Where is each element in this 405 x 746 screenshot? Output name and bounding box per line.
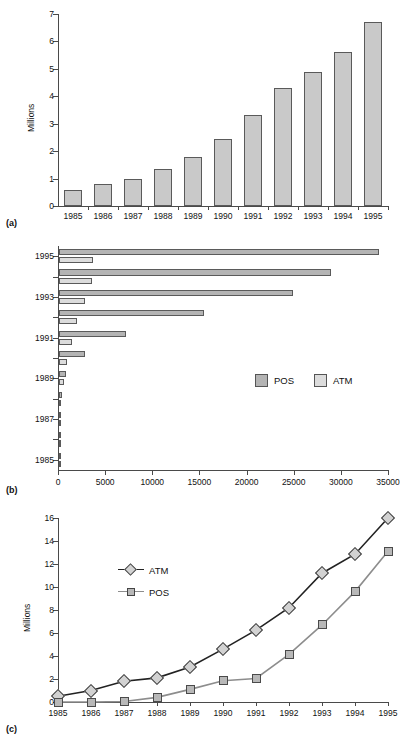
chart-a-x-tick-label: 1994 — [328, 211, 358, 221]
chart-a-x-tick-label: 1988 — [148, 211, 178, 221]
chart-a-x-tick — [208, 206, 209, 210]
chart-b-x-tick-label: 15000 — [177, 477, 221, 487]
chart-a-x-tick-label: 1986 — [88, 211, 118, 221]
panel-a-label: (a) — [6, 218, 17, 228]
chart-a-x-tick-label: 1989 — [178, 211, 208, 221]
chart-a-bar — [124, 179, 143, 206]
chart-a-bar — [154, 169, 173, 206]
chart-b-bar-atm — [59, 278, 92, 284]
chart-a-y-tick-label: 6 — [40, 36, 54, 46]
chart-panel-a: Millions (a) 012345671985198619871988198… — [0, 0, 405, 240]
chart-b-x-tick-label: 0 — [36, 477, 80, 487]
chart-a-y-tick-label: 3 — [40, 119, 54, 129]
chart-b-bar-pos — [59, 432, 61, 438]
chart-b-bar-pos — [59, 249, 379, 255]
panel-b-label: (b) — [6, 485, 18, 495]
chart-b-bar-pos — [59, 310, 204, 316]
legend-label-pos: POS — [274, 375, 294, 386]
chart-c-point-pos — [219, 676, 228, 685]
chart-a-bar — [244, 115, 263, 206]
chart-c-point-pos — [87, 698, 96, 707]
chart-b-x-tick — [199, 470, 200, 475]
chart-c-point-pos — [318, 620, 327, 629]
chart-a-y-axis-label: Millions — [26, 104, 36, 132]
chart-c-point-pos — [186, 685, 195, 694]
chart-a-x-tick-label: 1995 — [358, 211, 388, 221]
chart-a-x-axis — [58, 206, 388, 207]
chart-b-y-tick-label: 1985 — [22, 455, 54, 465]
chart-a-bar — [364, 22, 383, 206]
chart-b-bar-atm — [59, 257, 93, 263]
chart-a-bar — [334, 52, 353, 206]
chart-a-bar — [64, 190, 83, 206]
chart-b-bar-pos — [59, 371, 66, 377]
chart-b-bar-pos — [59, 453, 61, 459]
chart-b-bar-atm — [59, 339, 72, 345]
chart-b-x-tick — [388, 470, 389, 475]
chart-c-series-lines — [0, 502, 405, 746]
chart-b-y-tick-label: 1987 — [22, 414, 54, 424]
chart-b-plot-area — [58, 246, 388, 470]
chart-a-x-tick — [388, 206, 389, 210]
chart-b-bar-atm — [59, 400, 61, 406]
legend-swatch-atm-icon — [314, 374, 327, 387]
legend-label-atm: ATM — [333, 375, 352, 386]
chart-b-bar-pos — [59, 269, 331, 275]
chart-a-bar — [184, 157, 203, 206]
chart-c-point-pos — [384, 547, 393, 556]
chart-b-y-tick — [53, 439, 58, 440]
chart-a-x-tick — [88, 206, 89, 210]
chart-a-x-tick — [358, 206, 359, 210]
chart-b-y-tick-label: 1993 — [22, 292, 54, 302]
chart-c-point-pos — [153, 693, 162, 702]
chart-b-legend: POS ATM — [255, 374, 352, 387]
chart-b-x-tick-label: 35000 — [366, 477, 405, 487]
chart-b-x-tick-label: 5000 — [83, 477, 127, 487]
chart-b-x-axis — [58, 470, 388, 471]
chart-a-x-tick — [268, 206, 269, 210]
chart-a-y-tick-label: 5 — [40, 64, 54, 74]
chart-a-x-tick-label: 1991 — [238, 211, 268, 221]
chart-a-y-axis — [58, 14, 59, 206]
chart-b-bar-atm — [59, 420, 61, 426]
chart-a-x-tick — [118, 206, 119, 210]
chart-b-x-tick — [105, 470, 106, 475]
chart-a-x-tick-label: 1992 — [268, 211, 298, 221]
chart-b-y-tick-label: 1995 — [22, 251, 54, 261]
chart-a-x-tick — [298, 206, 299, 210]
chart-b-bar-pos — [59, 351, 85, 357]
chart-b-x-tick — [294, 470, 295, 475]
chart-a-x-tick — [238, 206, 239, 210]
chart-b-bar-pos — [59, 290, 293, 296]
chart-c-point-pos — [54, 698, 63, 707]
chart-a-x-tick — [148, 206, 149, 210]
chart-b-y-tick — [53, 358, 58, 359]
chart-a-y-tick-label: 0 — [40, 201, 54, 211]
chart-b-bar-pos — [59, 412, 61, 418]
chart-b-y-tick — [53, 317, 58, 318]
chart-b-y-tick-label: 1989 — [22, 373, 54, 383]
chart-a-x-tick-label: 1990 — [208, 211, 238, 221]
chart-c-point-pos — [120, 697, 129, 706]
chart-c-point-pos — [285, 650, 294, 659]
chart-a-y-tick-label: 1 — [40, 174, 54, 184]
chart-a-bar — [94, 184, 113, 206]
chart-b-bar-pos — [59, 331, 126, 337]
chart-b-y-tick — [53, 399, 58, 400]
chart-panel-c: Millions ATM POS (c) 0246810121416198519… — [0, 502, 405, 746]
chart-a-y-tick-label: 7 — [40, 9, 54, 19]
chart-b-y-tick-label: 1991 — [22, 333, 54, 343]
chart-a-bar — [274, 88, 293, 206]
chart-a-x-tick-label: 1985 — [58, 211, 88, 221]
chart-b-x-tick — [152, 470, 153, 475]
chart-a-bar — [214, 139, 233, 206]
chart-b-x-tick-label: 10000 — [130, 477, 174, 487]
chart-b-y-tick — [53, 277, 58, 278]
chart-b-x-tick — [341, 470, 342, 475]
chart-a-y-tick-label: 4 — [40, 91, 54, 101]
chart-b-x-tick-label: 20000 — [225, 477, 269, 487]
chart-a-x-tick-label: 1987 — [118, 211, 148, 221]
chart-b-bar-atm — [59, 318, 77, 324]
chart-c-point-pos — [252, 674, 261, 683]
chart-b-x-tick — [58, 470, 59, 475]
